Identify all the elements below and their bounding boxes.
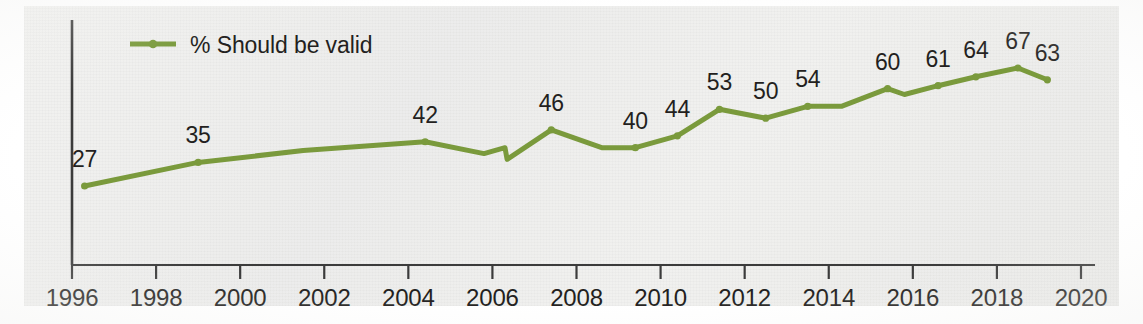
data-point-label: 46 <box>539 90 564 117</box>
data-point-label: 27 <box>72 146 97 173</box>
data-point-label: 40 <box>623 108 648 135</box>
data-point-label: 60 <box>875 49 900 76</box>
x-axis-tick-label: 2006 <box>466 284 519 312</box>
x-axis-tick-label: 2002 <box>298 284 351 312</box>
data-point-marker <box>548 126 555 133</box>
data-point-marker <box>934 82 941 89</box>
data-point-marker <box>674 132 681 139</box>
data-point-label: 44 <box>665 96 690 123</box>
x-axis-tick-label: 2012 <box>718 284 771 312</box>
x-axis <box>72 265 1095 279</box>
data-point-label: 61 <box>925 46 950 73</box>
x-axis-tick-label: 2020 <box>1055 284 1108 312</box>
x-axis-tick-label: 2008 <box>550 284 603 312</box>
series-line-should-be-valid <box>85 68 1048 186</box>
data-point-marker <box>804 103 811 110</box>
x-axis-tick-label: 2000 <box>214 284 267 312</box>
x-axis-tick-label: 2004 <box>382 284 435 312</box>
data-point-marker <box>195 159 202 166</box>
data-point-marker <box>81 182 88 189</box>
data-point-marker <box>884 85 891 92</box>
data-point-label: 42 <box>413 102 438 129</box>
data-point-marker <box>716 106 723 113</box>
x-axis-ticks <box>72 265 1081 279</box>
chart-container: % Should be valid 1996199820002002200420… <box>0 0 1143 324</box>
data-point-label: 50 <box>753 78 778 105</box>
series-group <box>81 64 1051 189</box>
data-point-label: 63 <box>1035 40 1060 67</box>
x-axis-tick-label: 1996 <box>46 284 99 312</box>
x-axis-tick-label: 2016 <box>887 284 940 312</box>
data-point-label: 35 <box>186 122 211 149</box>
legend-dot-icon <box>149 40 158 49</box>
data-point-marker <box>762 115 769 122</box>
x-axis-tick-label: 2018 <box>971 284 1024 312</box>
series-markers <box>81 64 1051 189</box>
data-point-label: 53 <box>707 69 732 96</box>
data-point-label: 67 <box>1005 28 1030 55</box>
data-point-marker <box>422 138 429 145</box>
x-axis-tick-label: 2014 <box>802 284 855 312</box>
legend-marker <box>130 40 176 49</box>
x-axis-tick-label: 1998 <box>130 284 183 312</box>
data-point-marker <box>1044 76 1051 83</box>
data-point-marker <box>1014 64 1021 71</box>
data-point-label: 54 <box>795 66 820 93</box>
data-point-label: 64 <box>963 37 988 64</box>
x-axis-tick-label: 2010 <box>634 284 687 312</box>
data-point-marker <box>632 144 639 151</box>
legend-label-should-be-valid: % Should be valid <box>190 32 372 59</box>
data-point-marker <box>972 73 979 80</box>
